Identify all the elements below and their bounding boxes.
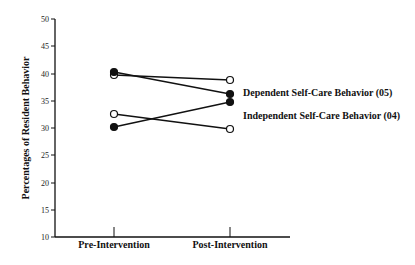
annotation-dependent: Dependent Self-Care Behavior (05) <box>243 87 392 99</box>
series-lines <box>114 72 230 129</box>
marker-open <box>111 111 118 118</box>
chart: 50 45 40 35 30 25 20 15 10 Percentages o… <box>0 0 415 265</box>
marker-filled <box>227 99 234 106</box>
svg-text:45: 45 <box>41 42 49 51</box>
svg-text:40: 40 <box>41 70 49 79</box>
svg-text:50: 50 <box>41 15 49 24</box>
x-label-pre: Pre-Intervention <box>78 239 150 250</box>
svg-text:25: 25 <box>41 151 49 160</box>
marker-open <box>227 126 234 133</box>
svg-text:20: 20 <box>41 179 49 188</box>
svg-text:15: 15 <box>41 206 49 215</box>
y-tick-labels: 50 45 40 35 30 25 20 15 10 <box>41 15 49 242</box>
marker-open <box>227 77 234 84</box>
svg-text:35: 35 <box>41 97 49 106</box>
marker-filled <box>111 69 118 76</box>
annotation-independent: Independent Self-Care Behavior (04) <box>243 110 400 122</box>
y-axis-label: Percentages of Resident Behavior <box>20 56 31 199</box>
svg-text:30: 30 <box>41 124 49 133</box>
svg-text:10: 10 <box>41 233 49 242</box>
marker-filled <box>111 124 118 131</box>
x-label-post: Post-Intervention <box>193 239 268 250</box>
marker-filled <box>227 91 234 98</box>
